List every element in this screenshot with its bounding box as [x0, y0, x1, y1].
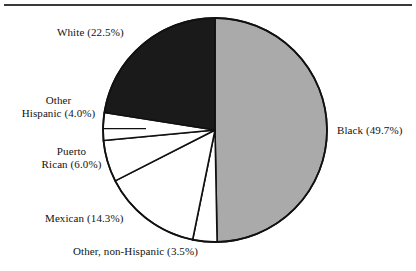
pie-label-puerto-rican-line2: Rican (6.0%) — [24, 158, 119, 171]
pie-label-other-non-hispanic-text: Other, non-Hispanic (3.5%) — [73, 245, 198, 257]
pie-label-other-non-hispanic: Other, non-Hispanic (3.5%) — [73, 245, 198, 258]
pie-label-black: Black (49.7%) — [337, 124, 402, 137]
pie-label-black-text: Black (49.7%) — [337, 124, 402, 136]
pie-label-other-hispanic-line1: Other — [11, 94, 106, 107]
pie-label-mexican: Mexican (14.3%) — [45, 212, 123, 225]
pie-slice-black[interactable] — [215, 18, 327, 242]
pie-label-puerto-rican: Puerto Rican (6.0%) — [24, 145, 119, 171]
pie-label-puerto-rican-line1: Puerto — [24, 145, 119, 158]
pie-label-mexican-text: Mexican (14.3%) — [45, 212, 123, 224]
pie-label-other-hispanic: Other Hispanic (4.0%) — [11, 94, 106, 120]
pie-label-other-hispanic-line2: Hispanic (4.0%) — [11, 107, 106, 120]
pie-label-white-text: White (22.5%) — [57, 26, 124, 38]
pie-chart-figure: White (22.5%) Black (49.7%) Other Hispan… — [0, 0, 416, 271]
pie-label-white: White (22.5%) — [57, 26, 124, 39]
